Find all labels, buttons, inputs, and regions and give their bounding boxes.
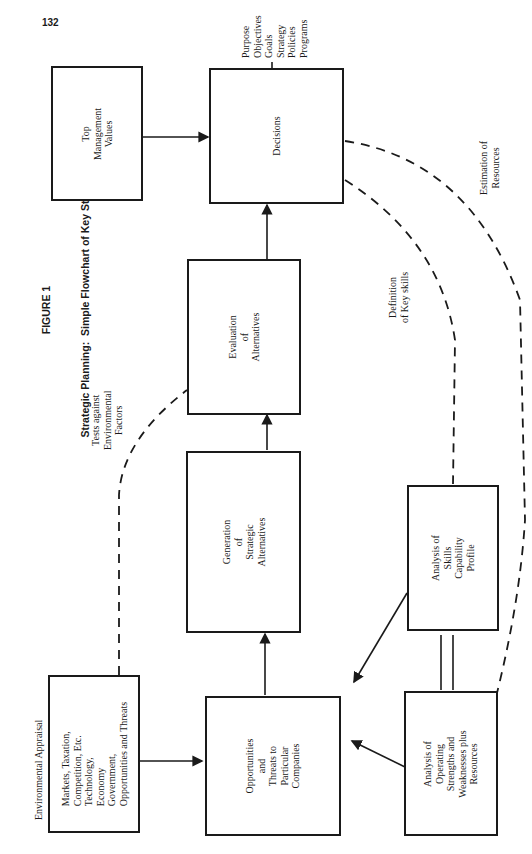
node-label: Markets, Taxation, Competition, Etc. Tec…	[60, 702, 129, 806]
arrow-skills-to-opportunities	[354, 593, 407, 682]
arrow-operating-to-opportunities	[352, 741, 405, 767]
node-label: Opportunities and Threats to Particular …	[244, 739, 302, 794]
label-definition-of-key-skills: Definition of Key skills	[387, 272, 410, 323]
decision-outputs-list: Purpose Objectives Goals Strategy Polici…	[240, 15, 309, 58]
node-label: Evaluation of Alternatives	[227, 313, 262, 362]
node-analysis-of-operating-strengths: Analysis of Operating Strengths and Weak…	[404, 691, 498, 836]
dashed-tests-environmental	[119, 390, 187, 675]
node-opportunities-and-threats: Opportunities and Threats to Particular …	[205, 696, 341, 836]
dashed-key-skills	[345, 180, 455, 484]
label-tests-against-environmental-factors: Tests against Environmental Factors	[90, 391, 125, 450]
node-label: Generation of Strategic Alternatives	[221, 518, 267, 567]
node-label: Analysis of Skills Capability Profile	[430, 535, 476, 581]
node-label: Decisions	[271, 116, 283, 155]
node-label: Top Management Values	[80, 107, 115, 159]
node-environmental-appraisal: Markets, Taxation, Competition, Etc. Tec…	[48, 675, 140, 833]
node-analysis-of-skills: Analysis of Skills Capability Profile	[407, 485, 499, 631]
node-decisions: Decisions	[209, 68, 344, 204]
node-evaluation-of-alternatives: Evaluation of Alternatives	[187, 259, 301, 415]
label-estimation-of-resources: Estimation of Resources	[478, 141, 501, 195]
environmental-appraisal-caption: Environmental Appraisal	[33, 720, 45, 820]
node-generation-of-strategic-alternatives: Generation of Strategic Alternatives	[186, 451, 301, 633]
node-top-management-values: Top Management Values	[51, 66, 143, 201]
node-label: Analysis of Operating Strengths and Weak…	[422, 730, 480, 797]
